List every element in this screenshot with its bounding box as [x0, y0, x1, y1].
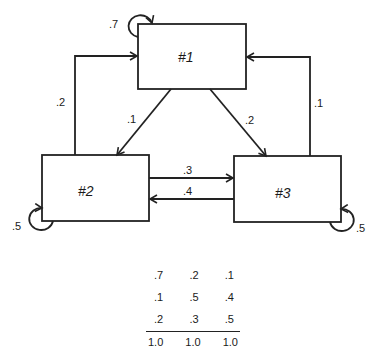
node-label-2: #2	[78, 183, 94, 199]
transition-matrix: .7 .2 .1 .1 .5 .4 .2 .3 .5 1.0 1.0 1.0	[146, 264, 240, 352]
node-label-3: #3	[275, 185, 291, 201]
edge-2-to-1	[75, 56, 137, 155]
edge-1-to-3	[210, 89, 266, 156]
edge-label-2-to-3: .3	[183, 164, 192, 176]
matrix-cell: .1	[225, 269, 234, 281]
edge-3-to-1	[247, 57, 310, 156]
matrix-cell: .5	[189, 291, 198, 303]
matrix-cell: .7	[154, 269, 163, 281]
edge-label-1-to-2: .1	[127, 113, 136, 125]
matrix-total: 1.0	[185, 336, 200, 348]
edge-label-self-2: .5	[12, 220, 21, 232]
self-loop-1	[129, 15, 152, 37]
edge-1-to-2	[117, 89, 171, 155]
node-label-1: #1	[178, 49, 194, 65]
matrix-total: 1.0	[223, 336, 238, 348]
matrix-cell: .5	[225, 313, 234, 325]
matrix-cell: .1	[154, 291, 163, 303]
matrix-total: 1.0	[148, 336, 163, 348]
matrix-cell: .4	[225, 291, 234, 303]
matrix-cell: .2	[154, 313, 163, 325]
matrix-row: .7 .2 .1	[146, 264, 240, 286]
edge-label-2-to-1: .2	[56, 96, 65, 108]
matrix-cell: .3	[189, 313, 198, 325]
edge-label-3-to-1: .1	[314, 97, 323, 109]
edge-label-3-to-2: .4	[183, 185, 192, 197]
edge-label-1-to-3: .2	[245, 114, 254, 126]
edge-label-self-3: .5	[356, 222, 365, 234]
matrix-totals-row: 1.0 1.0 1.0	[146, 332, 240, 352]
edge-label-self-1: .7	[109, 18, 118, 30]
matrix-row: .2 .3 .5	[146, 308, 240, 330]
node-box-2	[42, 155, 149, 221]
matrix-cell: .2	[189, 269, 198, 281]
matrix-row: .1 .5 .4	[146, 286, 240, 308]
